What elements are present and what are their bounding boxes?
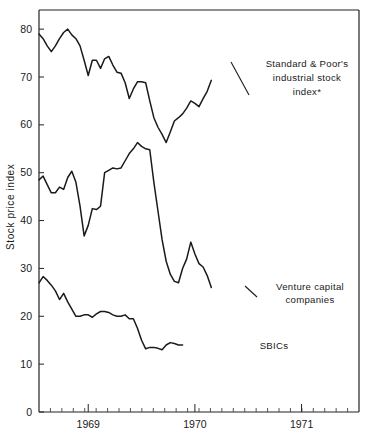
venture-label-line-2: companies <box>285 294 334 305</box>
y-tick-label: 20 <box>20 310 32 322</box>
y-tick-label: 80 <box>20 23 32 35</box>
sbic-label-line-1: SBICs <box>260 340 289 351</box>
x-axis-ticks <box>50 404 347 412</box>
stock-price-index-line-chart: 01020304050607080 196919701971 Stock pri… <box>0 0 374 443</box>
y-tick-label: 40 <box>20 214 32 226</box>
sp-label-group: Standard & Poor's industrial stock index… <box>266 58 349 97</box>
series-line-venture-capital <box>39 143 211 288</box>
y-tick-label: 0 <box>26 406 32 418</box>
x-axis-tick-labels: 196919701971 <box>77 418 314 430</box>
sp-leader-line <box>231 62 249 95</box>
series-line-s-p-industrial <box>39 29 211 142</box>
y-axis-ticks <box>39 29 44 412</box>
x-tick-label: 1970 <box>183 418 207 430</box>
y-tick-label: 60 <box>20 118 32 130</box>
chart-container: 01020304050607080 196919701971 Stock pri… <box>0 0 374 443</box>
y-tick-label: 30 <box>20 262 32 274</box>
annotation-layer: Standard & Poor's industrial stock index… <box>231 58 348 351</box>
y-axis-title: Stock price index <box>5 164 16 250</box>
sp-label-line-3: index* <box>293 86 321 97</box>
sp-label-line-1: Standard & Poor's <box>266 58 349 69</box>
venture-leader-line <box>245 286 257 297</box>
series-layer <box>39 29 211 350</box>
y-tick-label: 50 <box>20 166 32 178</box>
y-tick-label: 70 <box>20 71 32 83</box>
venture-label-line-1: Venture capital <box>276 281 344 292</box>
y-axis-tick-labels: 01020304050607080 <box>20 23 32 418</box>
series-line-sbics <box>39 277 183 350</box>
sbic-label-group: SBICs <box>260 340 289 351</box>
venture-label-group: Venture capital companies <box>276 281 344 305</box>
x-tick-label: 1971 <box>290 418 314 430</box>
sp-label-line-2: industrial stock <box>273 72 341 83</box>
y-tick-label: 10 <box>20 358 32 370</box>
x-tick-label: 1969 <box>77 418 101 430</box>
